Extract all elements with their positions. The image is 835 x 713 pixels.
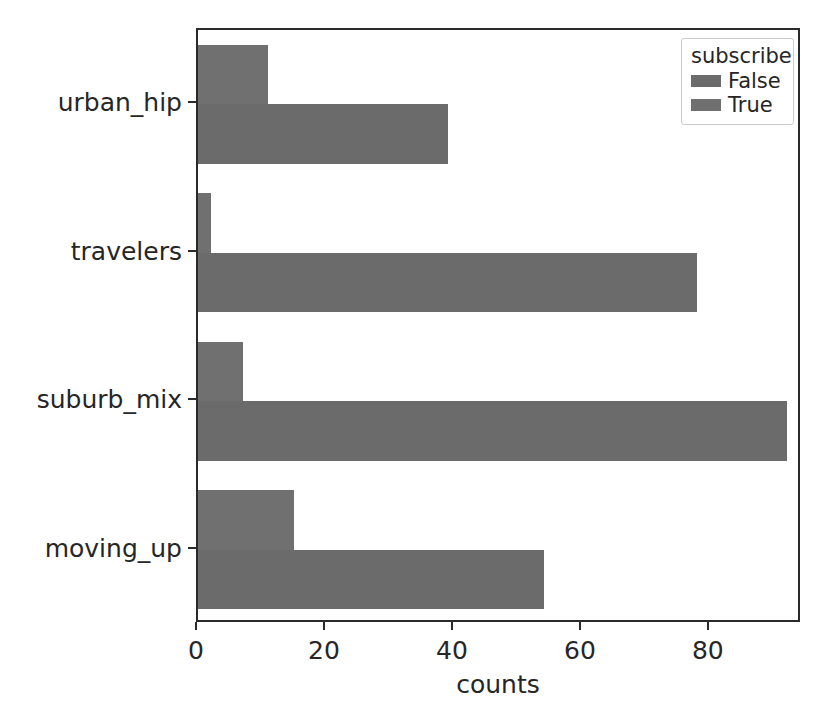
legend-label-false: False xyxy=(728,70,781,92)
legend-swatch-false xyxy=(691,75,721,87)
x-tick-mark-40 xyxy=(451,622,453,630)
bar-travelers-true xyxy=(198,193,211,252)
bar-suburb_mix-false xyxy=(198,401,787,460)
bar-suburb_mix-true xyxy=(198,342,243,401)
legend: subscribe FalseTrue xyxy=(681,38,794,125)
x-tick-label-20: 20 xyxy=(308,636,340,665)
legend-entry-false: False xyxy=(691,70,784,92)
bar-travelers-false xyxy=(198,253,697,312)
y-tick-mark-travelers xyxy=(188,250,196,252)
legend-entries: FalseTrue xyxy=(691,70,784,116)
legend-entry-true: True xyxy=(691,94,784,116)
bar-moving_up-true xyxy=(198,490,294,549)
bar-urban_hip-true xyxy=(198,45,268,104)
y-tick-label-urban_hip: urban_hip xyxy=(58,88,182,117)
x-tick-label-80: 80 xyxy=(692,636,724,665)
bar-moving_up-false xyxy=(198,550,544,609)
bar-urban_hip-false xyxy=(198,104,448,163)
legend-label-true: True xyxy=(728,94,773,116)
y-tick-mark-suburb_mix xyxy=(188,398,196,400)
x-axis-label: counts xyxy=(196,670,800,699)
x-tick-mark-0 xyxy=(195,622,197,630)
x-tick-label-0: 0 xyxy=(188,636,204,665)
legend-title: subscribe xyxy=(691,45,784,68)
x-tick-mark-60 xyxy=(579,622,581,630)
x-tick-label-60: 60 xyxy=(564,636,596,665)
x-tick-mark-80 xyxy=(707,622,709,630)
y-tick-label-suburb_mix: suburb_mix xyxy=(37,385,182,414)
legend-swatch-true xyxy=(691,99,721,111)
y-tick-label-moving_up: moving_up xyxy=(45,533,182,562)
x-tick-mark-20 xyxy=(323,622,325,630)
y-tick-mark-moving_up xyxy=(188,547,196,549)
y-tick-mark-urban_hip xyxy=(188,101,196,103)
chart-figure: Segment urban_hiptravelerssuburb_mixmovi… xyxy=(0,0,835,713)
x-tick-label-40: 40 xyxy=(436,636,468,665)
y-tick-label-travelers: travelers xyxy=(71,236,182,265)
y-axis-tick-labels: urban_hiptravelerssuburb_mixmoving_up xyxy=(0,28,182,622)
